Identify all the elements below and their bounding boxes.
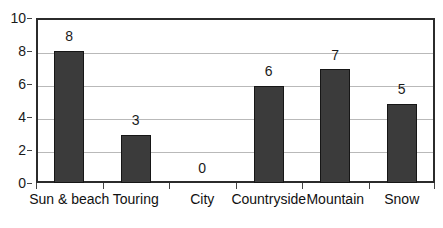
- y-tick-mark: [27, 51, 32, 52]
- x-tick-mark: [434, 183, 435, 189]
- x-tick-mark: [369, 183, 370, 189]
- bar-value-label: 0: [198, 161, 206, 175]
- x-tick-label: Countryside: [231, 192, 306, 207]
- bar-value-label: 8: [65, 29, 73, 43]
- bar-value-label: 3: [132, 113, 140, 127]
- bars-layer: 8 3 0 6 7 5: [36, 18, 435, 183]
- bar-value-label: 6: [265, 64, 273, 78]
- bar-slot: 5: [369, 18, 436, 183]
- bar[interactable]: [320, 69, 350, 183]
- bar[interactable]: [387, 104, 417, 183]
- x-tick-label: City: [190, 192, 214, 207]
- x-axis-ticks: [36, 183, 435, 189]
- y-tick-mark: [27, 117, 32, 118]
- y-axis: 10 8 6 4 2 0: [0, 18, 32, 183]
- x-tick-label: Touring: [113, 192, 159, 207]
- x-tick-mark: [169, 183, 170, 189]
- x-tick-mark: [302, 183, 303, 189]
- bar-slot: 8: [36, 18, 103, 183]
- bar-chart: 10 8 6 4 2 0 8 3 0 6 7: [0, 0, 443, 228]
- bar-value-label: 7: [331, 48, 339, 62]
- bar-slot: 0: [169, 18, 236, 183]
- bar-slot: 7: [302, 18, 369, 183]
- y-tick-label: 6: [18, 77, 26, 91]
- bar[interactable]: [121, 135, 151, 183]
- y-tick-mark: [27, 183, 32, 184]
- x-tick-mark: [236, 183, 237, 189]
- bar-value-label: 5: [398, 82, 406, 96]
- y-tick-label: 2: [18, 143, 26, 157]
- y-tick-label: 10: [10, 11, 26, 25]
- x-tick-mark: [36, 183, 37, 189]
- y-tick-label: 4: [18, 110, 26, 124]
- x-tick-label: Sun & beach: [29, 192, 109, 207]
- y-tick-mark: [27, 150, 32, 151]
- bar[interactable]: [54, 51, 84, 183]
- y-tick-label: 8: [18, 44, 26, 58]
- x-axis: Sun & beach Touring City Countryside Mou…: [36, 192, 435, 216]
- bar[interactable]: [254, 86, 284, 183]
- x-tick-mark: [103, 183, 104, 189]
- bar-slot: 6: [236, 18, 303, 183]
- y-tick-mark: [27, 18, 32, 19]
- y-tick-label: 0: [18, 176, 26, 190]
- y-tick-mark: [27, 84, 32, 85]
- bar-slot: 3: [103, 18, 170, 183]
- x-tick-label: Mountain: [306, 192, 364, 207]
- x-tick-label: Snow: [384, 192, 419, 207]
